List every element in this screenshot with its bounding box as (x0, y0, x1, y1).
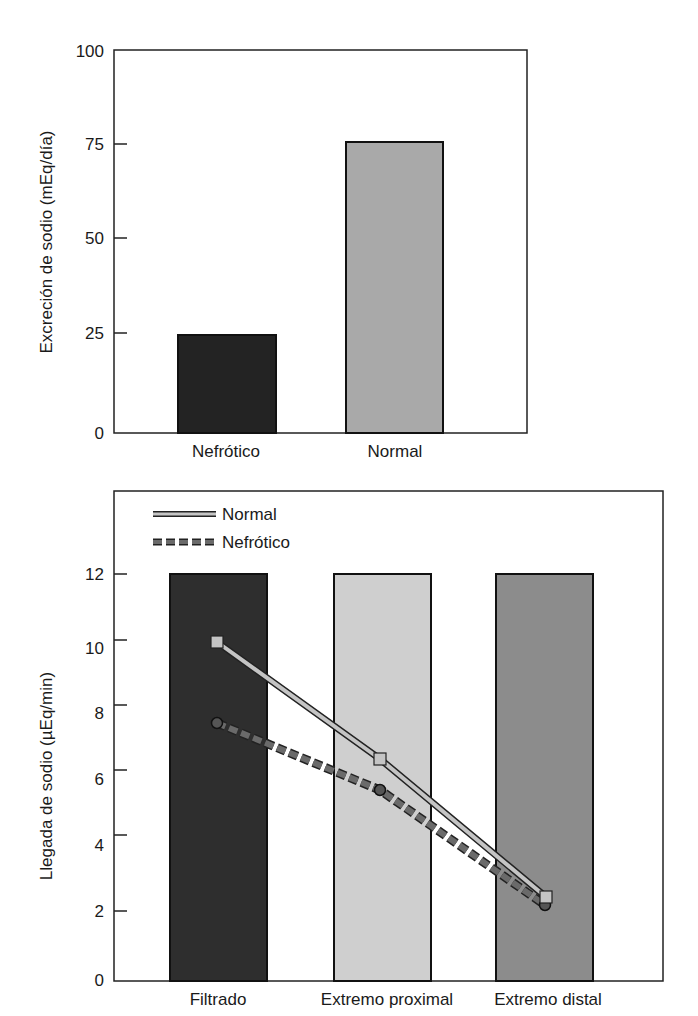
bottom-y-axis-title: Llegada de sodio (µEq/min) (37, 672, 56, 880)
top-tick-50: 50 (85, 229, 104, 248)
top-tick-25: 25 (85, 324, 104, 343)
top-category-nefrotico: Nefrótico (192, 442, 260, 461)
top-tick-100: 100 (76, 42, 104, 61)
bar-filtrado (170, 574, 267, 981)
top-plot-frame (114, 50, 527, 433)
bottom-category-filtrado: Filtrado (190, 990, 247, 1009)
top-category-normal: Normal (368, 442, 423, 461)
bottom-tick-4: 4 (95, 836, 104, 855)
bottom-category-extremo-proximal: Extremo proximal (321, 990, 453, 1009)
normal-point-proximal (374, 753, 386, 765)
top-tick-0: 0 (95, 424, 104, 443)
normal-point-distal (540, 891, 552, 903)
bottom-chart: 0 2 4 6 8 10 12 (37, 491, 663, 1009)
bottom-tick-0: 0 (95, 971, 104, 990)
bar-extremo-distal (496, 574, 593, 981)
bottom-tick-10: 10 (85, 639, 104, 658)
bar-normal (346, 142, 443, 433)
bottom-tick-2: 2 (95, 902, 104, 921)
bottom-category-extremo-distal: Extremo distal (494, 990, 602, 1009)
top-chart: 0 25 50 75 100 Nefrótico Normal Excreció… (37, 42, 527, 461)
nefrotico-point-filtrado (212, 718, 223, 729)
bar-extremo-proximal (334, 574, 431, 981)
normal-point-filtrado (211, 636, 223, 648)
legend-label-nefrotico: Nefrótico (222, 533, 290, 552)
bottom-tick-8: 8 (95, 704, 104, 723)
nefrotico-point-proximal (375, 785, 386, 796)
top-y-axis-title: Excreción de sodio (mEq/día) (37, 131, 56, 354)
bottom-tick-12: 12 (85, 565, 104, 584)
legend-label-normal: Normal (222, 505, 277, 524)
top-tick-75: 75 (85, 135, 104, 154)
figure: 0 25 50 75 100 Nefrótico Normal Excreció… (0, 0, 698, 1016)
bottom-tick-6: 6 (95, 770, 104, 789)
bar-nefrotico (178, 335, 276, 433)
